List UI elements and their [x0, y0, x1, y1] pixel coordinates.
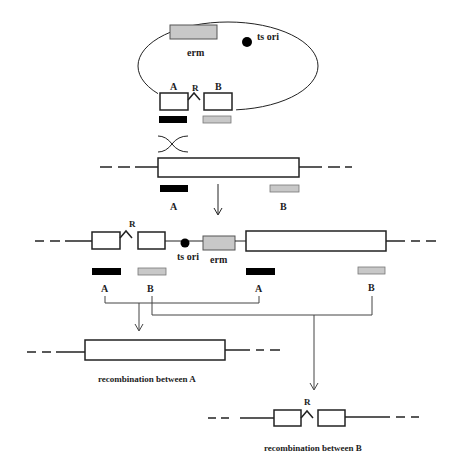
integrated-b-box [138, 232, 165, 249]
chromosome-a-bar [160, 185, 188, 192]
diagram-canvas: erm ts ori A R B A B [0, 0, 459, 464]
integrated-a1-label: A [101, 283, 109, 294]
integrated-locus [35, 231, 436, 251]
integrated-a2-bar [246, 268, 275, 275]
plasmid-erm-box [170, 25, 217, 39]
integrated-ts-ori-label: ts ori [177, 251, 199, 262]
integrated-erm-box [203, 236, 235, 250]
plasmid-b-bar [203, 116, 231, 123]
outcome-b-caption: recombination between B [264, 443, 362, 453]
chromosome-b-bar [270, 185, 299, 192]
outcome-a-locus [27, 340, 280, 360]
plasmid-erm-label: erm [187, 47, 205, 58]
outcome-a-caption: recombination between A [98, 374, 196, 384]
plasmid-fragment-a-box [160, 93, 188, 110]
integration-arrow [214, 184, 222, 215]
outcome-b-r-label: R [304, 397, 311, 407]
integrated-b1-label: B [147, 283, 154, 294]
integrated-a-box [92, 232, 120, 249]
plasmid-a-label: A [170, 81, 178, 92]
outcome-b-locus [208, 410, 419, 426]
chromosome [100, 158, 352, 177]
integrated-b2-label: B [368, 282, 375, 293]
chromosome-target-box [158, 158, 299, 177]
plasmid-ts-ori-label: ts ori [257, 31, 279, 42]
outcome-a-target-box [85, 340, 225, 360]
plasmid-fragment-b-box [204, 93, 232, 110]
chromosome-b-label: B [280, 201, 287, 212]
plasmid-b-label: B [215, 81, 222, 92]
integrated-a1-bar [92, 268, 121, 275]
outcome-b-b-box [318, 410, 345, 426]
integrated-b2-bar [358, 267, 385, 274]
plasmid: erm ts ori A R B [138, 22, 318, 123]
plasmid-ts-ori-dot [242, 37, 252, 47]
outcome-b-a-box [274, 410, 301, 426]
integrated-ts-ori-dot [181, 239, 190, 248]
integrated-a2-label: A [255, 283, 263, 294]
integrated-erm-label: erm [210, 254, 228, 265]
integrated-r-label: R [129, 219, 136, 229]
chromosome-a-label: A [170, 201, 178, 212]
integrated-b1-bar [138, 268, 166, 275]
plasmid-r-label: R [192, 83, 199, 93]
integrated-target-box [246, 231, 386, 251]
plasmid-a-bar [159, 116, 187, 123]
crossover-symbol [158, 136, 188, 152]
